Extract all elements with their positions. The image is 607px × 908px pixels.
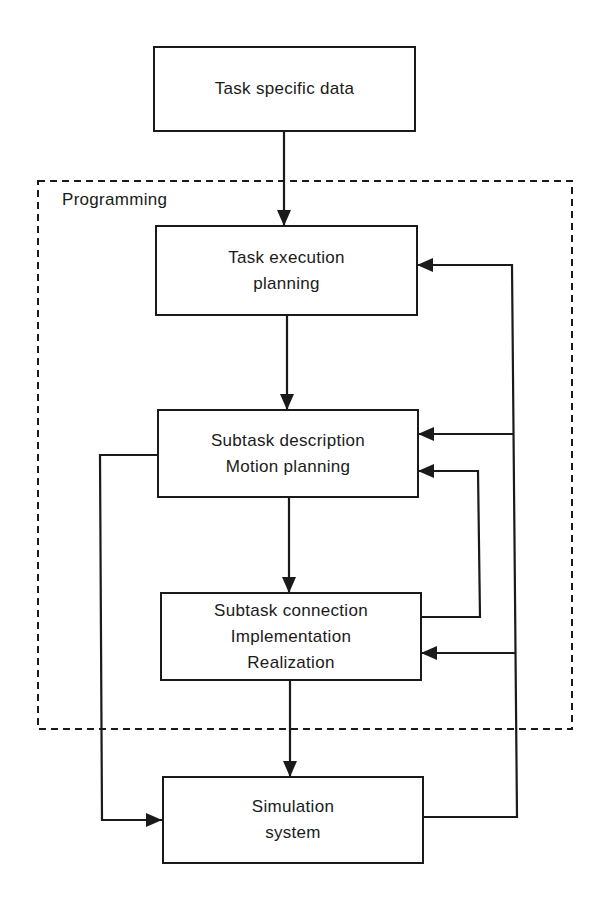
node-text: Subtask connection [214, 598, 368, 624]
arrowhead-icon [280, 394, 294, 410]
node-task-execution-planning: Task execution planning [155, 225, 418, 316]
node-text: Realization [247, 650, 334, 676]
node-subtask-connection: Subtask connection Implementation Realiz… [160, 592, 422, 681]
arrowhead-icon [282, 577, 296, 593]
node-task-specific-data: Task specific data [153, 46, 416, 132]
node-subtask-description: Subtask description Motion planning [157, 409, 419, 498]
arrowhead-icon [277, 210, 291, 226]
arrowhead-icon [283, 761, 297, 777]
node-simulation-system: Simulation system [162, 776, 424, 864]
arrow-desc-to-sim [100, 455, 162, 820]
node-text: Task execution [228, 245, 345, 271]
node-text: planning [253, 271, 320, 297]
node-text: Task specific data [215, 76, 355, 102]
arrowhead-icon [417, 258, 433, 272]
arrow-sim-feedback-trunk [417, 265, 517, 817]
arrowhead-icon [418, 464, 434, 478]
arrowhead-icon [146, 813, 162, 827]
node-text: Simulation [252, 794, 334, 820]
node-text: Implementation [231, 624, 351, 650]
node-text: Subtask description [211, 428, 365, 454]
arrowhead-icon [421, 646, 437, 660]
arrowhead-icon [418, 427, 434, 441]
programming-group-label: Programming [62, 190, 167, 210]
node-text: Motion planning [226, 454, 351, 480]
node-text: system [265, 820, 321, 846]
arrow-conn-to-desc [418, 471, 480, 617]
